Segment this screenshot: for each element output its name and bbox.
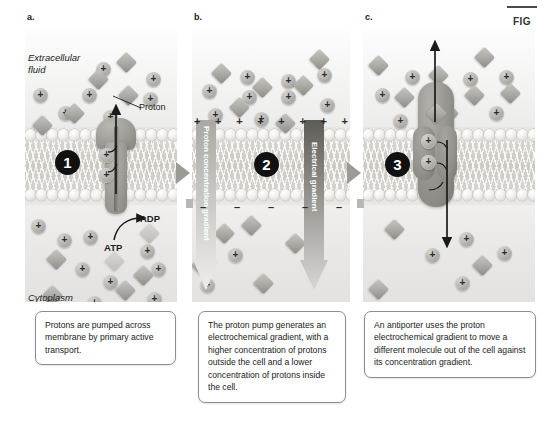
connector-arrow-b-to-c xyxy=(347,162,361,184)
caption-panel-b-text: The proton pump generates an electrochem… xyxy=(208,319,336,394)
caption-panel-c: An antiporter uses the proton electroche… xyxy=(364,311,536,378)
proton-particle: + xyxy=(57,233,72,248)
step-badge-2: 2 xyxy=(254,152,279,177)
electrical-gradient-label: Electrical gradient xyxy=(310,142,319,170)
proton-particle: + xyxy=(228,248,243,263)
lipid-head xyxy=(269,129,280,141)
proton-particle: + xyxy=(146,72,161,87)
membrane-negative-charge: – xyxy=(336,202,342,213)
proton-particle: + xyxy=(317,68,332,83)
lipid-head xyxy=(258,129,269,141)
lipid-head xyxy=(225,189,236,201)
membrane-positive-charge: + xyxy=(215,116,221,127)
caption-panel-a-text: Protons are pumped across membrane by pr… xyxy=(45,319,166,356)
membrane-positive-charge: + xyxy=(236,116,242,127)
lipid-head xyxy=(225,129,236,141)
lipid-head xyxy=(280,189,291,201)
panel-letter-b: b. xyxy=(194,12,202,22)
proton-particle: + xyxy=(83,230,98,245)
lipid-head xyxy=(236,189,247,201)
figure-marker: FIG xyxy=(500,6,544,27)
lipid-head xyxy=(335,189,346,201)
membrane-negative-charge: – xyxy=(302,202,308,213)
membrane-positive-charge: + xyxy=(257,116,263,127)
proton-particle: + xyxy=(140,244,155,259)
proton-particle: + xyxy=(147,292,162,302)
lipid-head xyxy=(335,129,346,141)
lipid-head xyxy=(247,129,258,141)
lipid-head xyxy=(269,189,280,201)
proton-concentration-gradient-label: Proton concentration gradient xyxy=(202,126,211,152)
membrane-negative-charge: – xyxy=(268,202,274,213)
connector-tab-a-to-b xyxy=(186,199,193,208)
figure-root: FIG a. b. c. + + xyxy=(0,0,550,423)
panel-b: ++++++++ ––––– Proton concentration grad… xyxy=(192,30,350,302)
inner-negative-charge-row: ––––– xyxy=(200,202,342,213)
membrane-positive-charge: + xyxy=(342,116,348,127)
panel-a: + + ATP ADP xyxy=(25,30,177,302)
caption-panel-b: The proton pump generates an electrochem… xyxy=(198,311,346,403)
proton-particle: + xyxy=(202,84,217,99)
adp-label: ADP xyxy=(140,213,160,224)
membrane-positive-charge: + xyxy=(320,116,326,127)
lipid-head xyxy=(258,189,269,201)
figure-rule xyxy=(507,6,537,8)
figure-marker-label: FIG xyxy=(500,16,544,27)
membrane-positive-charge: + xyxy=(299,116,305,127)
proton-particle: + xyxy=(31,219,46,234)
extracellular-fluid-label: Extracellular fluid xyxy=(28,52,90,76)
membrane-negative-charge: – xyxy=(234,202,240,213)
membrane-positive-charge: + xyxy=(194,116,200,127)
connector-tab-b-to-c xyxy=(357,199,364,208)
proton-particle: + xyxy=(75,262,90,277)
panel-letter-c: c. xyxy=(365,12,373,22)
proton-label: Proton xyxy=(139,102,166,112)
panel-letter-a: a. xyxy=(27,12,35,22)
lipid-head xyxy=(236,129,247,141)
outer-positive-charge-row: ++++++++ xyxy=(194,116,348,127)
panel-c: + + 3 +++++++++++ xyxy=(363,30,535,302)
caption-panel-a: Protons are pumped across membrane by pr… xyxy=(35,311,176,365)
step-badge-1: 1 xyxy=(55,150,80,175)
connector-arrow-a-to-b xyxy=(176,162,190,184)
cytoplasm-label: Cytoplasm xyxy=(28,292,73,302)
caption-panel-c-text: An antiporter uses the proton electroche… xyxy=(374,319,526,369)
membrane-negative-charge: – xyxy=(200,202,206,213)
atp-label: ATP xyxy=(104,242,122,253)
proton-particle: + xyxy=(240,70,255,85)
lipid-head xyxy=(247,189,258,201)
membrane-positive-charge: + xyxy=(278,116,284,127)
lipid-head xyxy=(346,189,350,201)
lipid-head xyxy=(346,129,350,141)
step-badge-3: 3 xyxy=(385,152,410,177)
proton-particle: + xyxy=(281,90,296,105)
proton-particle: + xyxy=(320,98,335,113)
